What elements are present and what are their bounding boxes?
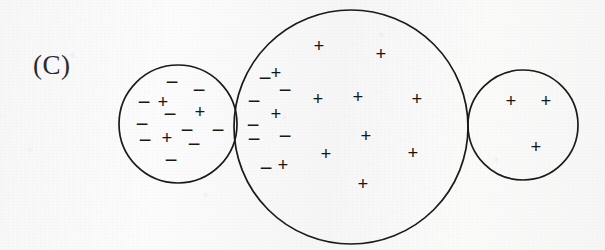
positive-charge-symbol: + — [314, 36, 325, 55]
positive-charge-symbol: + — [506, 91, 517, 110]
positive-charge-symbol: + — [321, 144, 332, 163]
negative-charge-symbol: − — [247, 90, 260, 113]
negative-charge-symbol: − — [258, 67, 271, 90]
positive-charge-symbol: + — [541, 91, 552, 110]
negative-charge-symbol: − — [247, 128, 260, 151]
panel-label: (C) — [33, 52, 71, 79]
positive-charge-symbol: + — [376, 44, 387, 63]
positive-charge-symbol: + — [408, 143, 419, 162]
negative-charge-symbol: − — [192, 79, 205, 102]
positive-charge-symbol: + — [358, 174, 369, 193]
right-circle — [468, 70, 578, 180]
circles-diagram — [0, 0, 605, 250]
positive-charge-symbol: + — [531, 137, 542, 156]
positive-charge-symbol: + — [271, 104, 282, 123]
positive-charge-symbol: + — [313, 89, 324, 108]
positive-charge-symbol: + — [162, 128, 173, 147]
negative-charge-symbol: − — [259, 157, 272, 180]
positive-charge-symbol: + — [353, 87, 364, 106]
negative-charge-symbol: − — [278, 125, 291, 148]
positive-charge-symbol: + — [278, 155, 289, 174]
middle-circle — [234, 10, 468, 244]
negative-charge-symbol: − — [163, 103, 176, 126]
positive-charge-symbol: + — [412, 89, 423, 108]
negative-charge-symbol: − — [138, 129, 151, 152]
figure-canvas: (C) −−−+−+−−−−+−−−−−−−−−+++++++++++++++ — [0, 0, 605, 250]
negative-charge-symbol: − — [164, 149, 177, 172]
negative-charge-symbol: − — [187, 133, 200, 156]
positive-charge-symbol: + — [361, 126, 372, 145]
negative-charge-symbol: − — [137, 91, 150, 114]
positive-charge-symbol: + — [195, 102, 206, 121]
negative-charge-symbol: − — [211, 119, 224, 142]
positive-charge-symbol: + — [271, 63, 282, 82]
